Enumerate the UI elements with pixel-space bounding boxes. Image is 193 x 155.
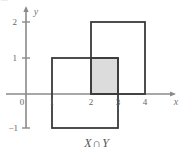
x-tick-label-3: 3 [116, 97, 121, 107]
figure-root: — ······ 0 1 2 3 4 2 1 −1 x y [0, 0, 193, 155]
intersection-region-fill [91, 58, 118, 94]
x-tick-label-2: 2 [89, 97, 94, 107]
figure-caption: X∩Y [0, 136, 193, 151]
caption-set-y: Y [102, 136, 109, 150]
y-tick-label-2: 2 [13, 17, 18, 27]
x-tick-label-4: 4 [143, 97, 148, 107]
x-tick-label-0: 0 [20, 97, 25, 107]
x-tick-label-1: 1 [50, 97, 55, 107]
y-axis-label: y [33, 6, 39, 17]
caption-intersection-operator: ∩ [91, 136, 102, 150]
x-axis-label: x [173, 96, 179, 107]
y-axis-arrow-icon [23, 6, 28, 12]
coordinate-plot: 0 1 2 3 4 2 1 −1 x y [0, 0, 193, 136]
y-tick-label-1: 1 [13, 53, 18, 63]
y-tick-label-minus-1: −1 [8, 123, 18, 133]
